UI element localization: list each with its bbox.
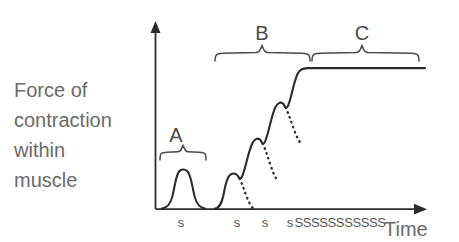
stimulus-tick-1: s (178, 215, 185, 230)
stimulus-tick-4: s (287, 215, 294, 230)
x-axis-label: Time (384, 218, 428, 240)
brace-b: B (215, 22, 310, 61)
stimulus-tick-2: s (234, 215, 241, 230)
x-axis-arrow-icon (414, 204, 427, 215)
brace-a-label: A (169, 124, 183, 146)
dotted-relaxation-2 (263, 144, 279, 181)
stimulus-tick-3: s (262, 215, 269, 230)
y-axis-label-line-3: within (13, 139, 65, 161)
brace-a: A (160, 124, 206, 160)
brace-b-label: B (255, 22, 268, 44)
brace-c: C (312, 22, 419, 61)
dotted-relaxation-3 (286, 108, 302, 143)
muscle-contraction-chart: Force of contraction within muscle A B (0, 0, 459, 242)
y-axis-arrow-icon (151, 21, 161, 33)
figure-root: Force of contraction within muscle A B (0, 0, 459, 242)
trace-staircase-tetanus (215, 68, 425, 208)
y-axis-label-line-1: Force of (14, 79, 88, 101)
dotted-relaxation-1 (240, 179, 254, 209)
y-axis-label: Force of contraction within muscle (13, 79, 112, 191)
brace-c-label: C (355, 22, 369, 44)
stimulus-tick-labels: s s s s SSSSSSSSSSS (178, 215, 386, 230)
stimulus-tick-train: SSSSSSSSSSS (295, 215, 387, 230)
y-axis-label-line-2: contraction (14, 109, 112, 131)
trace-single-twitch (162, 170, 205, 209)
y-axis-label-line-4: muscle (14, 169, 77, 191)
